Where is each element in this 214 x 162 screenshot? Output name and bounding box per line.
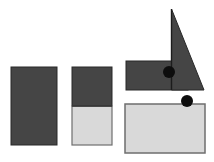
dot-on-light-rectangle	[181, 95, 193, 107]
right-triangle	[172, 9, 205, 90]
dot-on-dark-rectangle	[163, 66, 175, 78]
left-dark-rectangle	[11, 67, 57, 145]
bottom-light-rectangle	[125, 104, 205, 153]
middle-rectangle-dark-half	[72, 67, 112, 106]
middle-rectangle-light-half	[72, 106, 112, 145]
shapes-figure	[0, 0, 214, 162]
diagram-canvas	[0, 0, 214, 162]
